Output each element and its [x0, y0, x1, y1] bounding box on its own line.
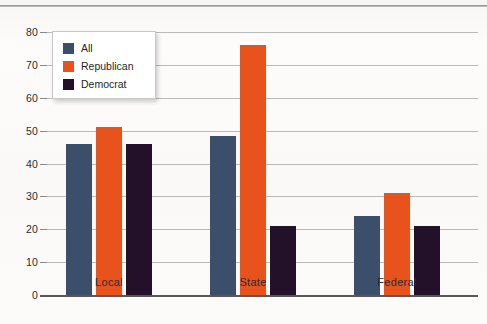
legend-swatch-democrat — [63, 79, 74, 90]
y-axis-tick-label: 10 — [8, 256, 38, 268]
header-rule — [0, 5, 487, 7]
y-axis-tick-mark — [40, 262, 47, 263]
y-axis-tick-mark — [40, 32, 47, 33]
legend-swatch-all — [63, 43, 74, 54]
legend-item-all: All — [63, 39, 155, 57]
chart-page: 01020304050607080 LocalStateFederal All … — [0, 0, 487, 324]
legend-label-all: All — [81, 43, 93, 54]
axis-baseline — [47, 295, 478, 297]
y-axis-tick-mark — [40, 65, 47, 66]
y-axis-tick-label: 40 — [8, 158, 38, 170]
y-axis-tick-label: 30 — [8, 190, 38, 202]
x-axis-label-local: Local — [66, 276, 152, 288]
legend-item-democrat: Democrat — [63, 75, 155, 93]
y-axis-tick-label: 0 — [8, 289, 38, 301]
y-axis-tick-label: 50 — [8, 125, 38, 137]
bar-local-democrat — [126, 144, 152, 295]
bar-local-republican — [96, 127, 122, 295]
y-axis-tick-mark — [40, 196, 47, 197]
legend-label-republican: Republican — [81, 61, 134, 72]
legend-label-democrat: Democrat — [81, 79, 127, 90]
y-axis-tick-label: 80 — [8, 26, 38, 38]
chart-legend: All Republican Democrat — [52, 31, 156, 99]
bar-local-all — [66, 144, 92, 295]
x-axis-label-state: State — [210, 276, 296, 288]
y-axis-tick-mark — [40, 131, 47, 132]
y-axis-tick-mark — [40, 229, 47, 230]
legend-swatch-republican — [63, 61, 74, 72]
x-axis-label-federal: Federal — [354, 276, 440, 288]
y-axis-tick-mark — [40, 295, 47, 297]
y-axis-tick-label: 20 — [8, 223, 38, 235]
legend-item-republican: Republican — [63, 57, 155, 75]
y-axis-tick-label: 60 — [8, 92, 38, 104]
bar-state-all — [210, 136, 236, 295]
bar-state-republican — [240, 45, 266, 295]
y-axis-tick-mark — [40, 98, 47, 99]
y-axis-tick-label: 70 — [8, 59, 38, 71]
y-axis-tick-mark — [40, 164, 47, 165]
